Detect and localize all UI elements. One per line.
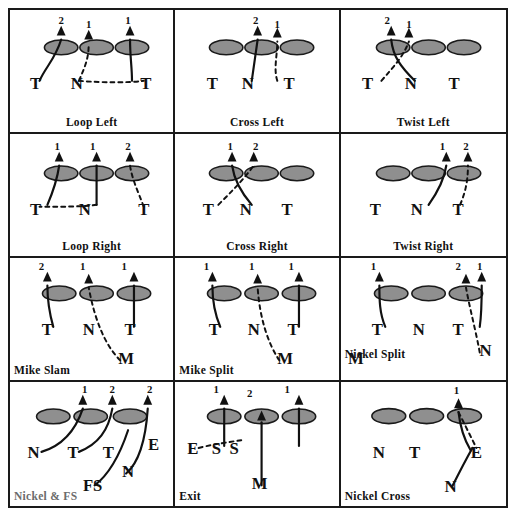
player-position-label: N: [83, 320, 95, 339]
offensive-lineman-oval: [245, 166, 278, 181]
diagram-cell-cross-right: TNT12Cross Right: [175, 134, 340, 258]
offensive-lineman-oval: [409, 409, 443, 424]
cell-caption-loop-left: Loop Left: [10, 116, 173, 128]
diagram-grid: TNT211Loop LeftTNT21Cross LeftTNT21Twist…: [8, 8, 508, 508]
player-position-label: T: [140, 74, 151, 93]
player-position-label: N: [79, 200, 91, 219]
technique-number-label: 2: [455, 260, 460, 272]
player-position-label: M: [252, 474, 268, 493]
diagram-cell-nickel-split: TNT121MNNickel Split: [341, 258, 506, 382]
offensive-lineman-oval: [447, 40, 480, 55]
arrowhead: [143, 395, 152, 405]
play-diagram-twist-left: TNT21: [341, 10, 506, 132]
arrowhead: [84, 274, 93, 284]
player-position-label: M: [278, 349, 294, 368]
diagram-cell-twist-right: TNT12Twist Right: [341, 134, 506, 258]
arrowhead: [84, 30, 93, 40]
cell-caption-twist-left: Twist Left: [341, 116, 506, 128]
player-position-label: T: [203, 200, 214, 219]
cell-caption-nickel-fs: Nickel & FS: [14, 490, 77, 502]
arrowhead: [57, 26, 66, 36]
cell-caption-nickel-cross: Nickel Cross: [345, 490, 411, 502]
offensive-lineman-oval: [372, 409, 406, 424]
offensive-lineman-oval: [376, 166, 409, 181]
play-diagram-exit: ESS121M: [175, 382, 338, 506]
arrowhead: [220, 395, 229, 405]
player-position-label: M: [118, 349, 134, 368]
diagram-cell-loop-right: TNT112Loop Right: [10, 134, 175, 258]
diagram-cell-nickel-cross: NTEN1Nickel Cross: [341, 382, 506, 506]
offensive-lineman-oval: [447, 166, 480, 181]
player-position-label: FS: [83, 476, 103, 495]
player-position-label: N: [412, 320, 424, 339]
player-position-label: T: [124, 320, 135, 339]
player-position-label: N: [71, 74, 83, 93]
arrowhead: [454, 398, 463, 408]
player-position-label: T: [284, 74, 295, 93]
offensive-lineman-oval: [210, 166, 243, 181]
play-diagram-cross-left: TNT21: [175, 10, 338, 132]
technique-number-label: 1: [82, 383, 87, 395]
cell-caption-twist-right: Twist Right: [341, 240, 506, 252]
arrowhead: [78, 395, 87, 405]
technique-number-label: 2: [253, 14, 258, 26]
player-position-label: S: [212, 439, 221, 458]
player-position-label: N: [444, 477, 456, 496]
technique-number-label: 2: [39, 260, 44, 272]
offensive-lineman-oval: [44, 166, 77, 181]
technique-number-label: 2: [58, 14, 63, 26]
player-position-label: N: [479, 341, 491, 360]
player-position-label: N: [248, 320, 260, 339]
player-position-label: T: [288, 320, 299, 339]
player-position-label: T: [372, 320, 383, 339]
technique-number-label: 2: [384, 14, 389, 26]
offensive-lineman-oval: [113, 409, 146, 424]
cell-caption-cross-left: Cross Left: [175, 116, 338, 128]
technique-number-label: 1: [477, 260, 482, 272]
player-position-label: N: [240, 200, 252, 219]
technique-number-label: 1: [86, 18, 91, 30]
player-position-label: T: [362, 74, 373, 93]
offensive-lineman-oval: [210, 40, 243, 55]
diagram-cell-exit: ESS121MExit: [175, 382, 340, 506]
player-position-label: E: [148, 435, 159, 454]
player-position-label: T: [209, 320, 220, 339]
arrowhead: [55, 152, 64, 162]
diagram-cell-cross-left: TNT21Cross Left: [175, 10, 340, 134]
player-position-label: T: [207, 74, 218, 93]
arrowhead: [477, 272, 486, 282]
arrowhead: [254, 274, 263, 284]
technique-number-label: 1: [228, 140, 233, 152]
play-diagram-loop-left: TNT211: [10, 10, 173, 132]
technique-number-label: 1: [90, 140, 95, 152]
diagram-sheet: TNT211Loop LeftTNT21Cross LeftTNT21Twist…: [0, 0, 522, 528]
arrowhead: [126, 152, 135, 162]
player-position-label: T: [30, 200, 41, 219]
arrowhead: [92, 152, 101, 162]
player-position-label: E: [187, 439, 198, 458]
offensive-lineman-oval: [447, 409, 481, 424]
player-position-label: T: [452, 200, 463, 219]
technique-number-label: 1: [453, 384, 458, 396]
arrowhead: [442, 152, 451, 162]
player-position-label: N: [28, 443, 40, 462]
arrowhead: [254, 26, 263, 36]
player-position-label: S: [230, 439, 239, 458]
arrowhead: [250, 152, 259, 162]
technique-number-label: 2: [247, 387, 252, 399]
technique-number-label: 2: [125, 140, 130, 152]
player-position-label: N: [242, 74, 254, 93]
offensive-lineman-oval: [412, 166, 445, 181]
play-diagram-nickel-fs: NTTENFS122: [10, 382, 173, 506]
player-position-label: T: [103, 443, 114, 462]
technique-number-label: 1: [249, 260, 254, 272]
play-diagram-loop-right: TNT112: [10, 134, 173, 256]
arrowhead: [295, 395, 304, 405]
technique-number-label: 2: [147, 383, 152, 395]
offensive-lineman-oval: [37, 409, 70, 424]
player-position-label: T: [67, 443, 78, 462]
player-position-label: T: [409, 443, 421, 462]
player-position-label: T: [370, 200, 381, 219]
technique-number-label: 1: [285, 383, 290, 395]
player-position-label: E: [470, 443, 481, 462]
